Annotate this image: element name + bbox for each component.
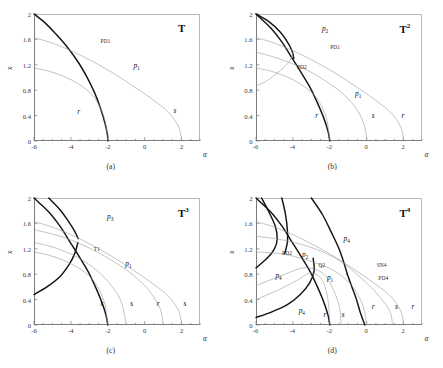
y-tick-label: 1.6 [23,36,31,43]
panel-title-base: T [400,207,407,219]
curve-label-index: 1 [331,278,334,284]
curve-label-s: s [372,112,375,119]
curve-p4-left [256,198,277,268]
x-tick-label: -4 [68,143,74,150]
y-axis-label: x [227,251,236,254]
curve-t1-branch [34,242,78,294]
plot-area: p2p1rsrPD1PD2 [256,14,422,141]
x-axis-ticks: -6-4-202 [34,325,200,339]
x-tick-label: -6 [31,143,37,150]
curve-label-r-right: r [412,303,415,310]
x-axis-label: α [203,334,207,343]
curve-label-index: 2 [326,29,329,35]
panel-title: T [178,22,185,34]
y-tick-label: 1.6 [244,220,252,227]
y-tick-label: 2 [249,195,252,202]
curve-label-index: 4 [347,238,350,244]
x-tick-label: -4 [290,143,296,150]
curve-s [256,52,367,141]
y-tick-label: 0.4 [244,296,252,303]
plot-area: p3p1rsrsT1 [34,198,200,325]
x-tick-label: 0 [365,143,368,150]
y-tick-label: 1.6 [23,220,31,227]
curve-label-symbol: r [100,299,103,308]
curve-label-index: 1 [129,264,132,270]
y-axis-ticks: 00.40.81.21.62 [0,14,31,141]
curve-label-p3: p3 [107,213,113,223]
x-tick-label: 2 [180,143,183,150]
curve-label-r-right: r [157,300,160,307]
curve-label-p1: p1 [355,90,361,100]
x-tick-label: 0 [365,327,368,334]
panel-title: T2 [400,22,411,35]
curve-label-symbol: r [315,111,318,120]
y-axis-ticks: 00.40.81.21.62 [222,14,253,141]
curve-label-r-left: r [100,300,103,307]
curve-label-symbol: r [324,310,327,319]
y-tick-label: 0.4 [23,112,31,119]
x-tick-label: -6 [253,327,259,334]
curve-r [34,68,108,141]
y-axis-ticks: 00.40.81.21.62 [0,198,31,325]
curve-label-p2: p2 [302,251,308,261]
panel-title-exponent: 2 [407,22,411,30]
curve-label-symbol: r [402,111,405,120]
x-tick-label: 2 [401,143,404,150]
curve-label-s-right: s [183,300,186,307]
curve-label-p1: p1 [125,260,131,270]
y-tick-label: 0.8 [23,271,31,278]
curve-label-r-left: r [315,112,318,119]
x-tick-label: 2 [180,327,183,334]
panel-title-exponent: 3 [185,206,189,214]
panel-title: T4 [400,206,411,219]
curve-label-r-inner: r [324,311,327,318]
curve-p1 [256,14,330,141]
panel-b: 00.40.81.21.62-6-4-202xαp2p1rsrPD1PD2T2(… [222,0,443,184]
y-tick-label: 1.2 [23,245,31,252]
panel-title: T3 [178,206,189,219]
bifurcation-label-pd2: PD2 [282,250,292,256]
x-tick-label: -2 [105,143,111,150]
y-tick-label: 0.8 [244,87,252,94]
x-axis-label: α [203,150,207,159]
y-axis-label: x [227,67,236,70]
curve-label-symbol: s [130,299,133,308]
panel-title-base: T [178,22,185,34]
curve-r-right [256,38,404,142]
bifurcation-label-sn4: SN4 [377,262,387,268]
panel-c: 00.40.81.21.62-6-4-202xαp3p1rsrsT1T3(c) [0,184,222,368]
curve-label-p1: p1 [134,62,140,72]
curve-label-s-mid: s [130,300,133,307]
x-axis-ticks: -6-4-202 [256,325,422,339]
curve-label-symbol: s [183,299,186,308]
curve-label-index: 2 [306,255,309,261]
curve-label-symbol: s [342,310,345,319]
y-tick-label: 0.8 [244,271,252,278]
curve-label-symbol: s [395,302,398,311]
curve-label-symbol: s [173,106,176,115]
curve-label-symbol: r [157,299,160,308]
curve-label-symbol: r [412,302,415,311]
x-tick-label: -6 [31,327,37,334]
bifurcation-label-pd1: PD1 [330,44,340,50]
panel-title-exponent: 4 [407,206,411,214]
curve-label-s: s [173,107,176,114]
bifurcation-label-q2: Q2 [319,262,326,268]
curve-label-p2: p2 [322,25,328,35]
curve-label-index: 4 [279,275,282,281]
x-tick-label: -6 [253,143,259,150]
curve-label-s-inner: s [342,311,345,318]
curve-sn4-branch [347,274,365,325]
x-tick-label: 0 [143,143,146,150]
curve-p4-top [311,198,347,274]
curve-label-index: 3 [111,217,114,223]
curve-s [34,38,182,142]
y-tick-label: 0.4 [244,112,252,119]
curve-label-r-right: r [402,112,405,119]
bifurcation-label-pd4: PD4 [378,275,388,281]
x-tick-label: 0 [143,327,146,334]
curve-label-index: 1 [137,66,140,72]
curve-r-inner [256,273,330,325]
y-tick-label: 1.2 [244,245,252,252]
plot-area: p1rsPD1 [34,14,200,141]
